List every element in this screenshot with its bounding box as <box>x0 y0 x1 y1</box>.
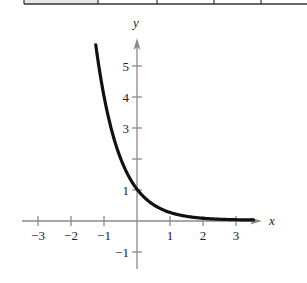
x-axis-label: x <box>268 213 275 228</box>
x-tick-label: 3 <box>233 228 240 243</box>
plot-svg: −3−2−1123−11345xy <box>0 0 307 283</box>
table-fragment <box>24 0 307 4</box>
x-tick-label: −1 <box>97 228 111 243</box>
y-tick-label: 3 <box>123 121 130 136</box>
x-tick-label: 2 <box>200 228 207 243</box>
y-tick-label: 1 <box>123 183 130 198</box>
x-tick-label: −3 <box>31 228 45 243</box>
y-tick-label: 5 <box>123 59 130 74</box>
function-graph-figure: −3−2−1123−11345xy <box>0 0 307 283</box>
y-tick-label: −1 <box>115 245 129 260</box>
axes <box>22 38 262 269</box>
exponential-decay-curve <box>96 45 254 220</box>
y-tick-label: 4 <box>123 90 130 105</box>
x-tick-label: −2 <box>64 228 78 243</box>
x-tick-label: 1 <box>167 228 174 243</box>
y-axis-label: y <box>131 15 139 30</box>
tick-labels: −3−2−1123−11345xy <box>31 15 275 260</box>
